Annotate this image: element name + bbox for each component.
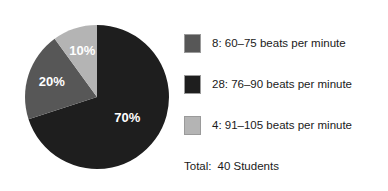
- legend-item-76-90: 28: 76–90 beats per minute: [184, 74, 384, 95]
- legend-swatch-60-75: [184, 34, 201, 53]
- legend-swatch-76-90: [184, 75, 201, 94]
- legend-item-91-105: 4: 91–105 beats per minute: [184, 115, 384, 136]
- legend-label-60-75: 8: 60–75 beats per minute: [212, 37, 346, 50]
- total-value: 40 Students: [218, 160, 279, 172]
- pie-slices: [25, 25, 169, 169]
- pie-slice-label-70: 70%: [114, 110, 140, 125]
- total-label: Total:: [184, 160, 212, 172]
- legend-item-60-75: 8: 60–75 beats per minute: [184, 33, 384, 54]
- pie-svg: 70%20%10%: [24, 24, 170, 170]
- legend-swatch-91-105: [184, 116, 201, 135]
- legend-label-91-105: 4: 91–105 beats per minute: [212, 119, 352, 132]
- pie-chart-figure: 70%20%10% 8: 60–75 beats per minute 28: …: [0, 0, 388, 191]
- total-line: Total:40 Students: [184, 160, 279, 172]
- legend: 8: 60–75 beats per minute 28: 76–90 beat…: [184, 33, 384, 136]
- pie-slice-label-10: 10%: [69, 43, 95, 58]
- pie-slice-label-20: 20%: [39, 74, 65, 89]
- legend-label-76-90: 28: 76–90 beats per minute: [212, 78, 352, 91]
- pie-chart-graphic: 70%20%10%: [24, 24, 170, 170]
